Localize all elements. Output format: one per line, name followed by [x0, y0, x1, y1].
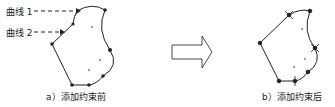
shape-before-constraints: [34, 6, 114, 85]
hollow-arrow: [172, 36, 212, 68]
shape-after-points: [258, 9, 319, 86]
caption-after: b）添加约束后: [262, 90, 322, 103]
caption-before: a）添加约束前: [46, 90, 106, 103]
curve-1-label: 曲线 1: [6, 5, 33, 18]
curve-2-label: 曲线 2: [6, 26, 33, 39]
shape-before-points: [50, 8, 112, 87]
